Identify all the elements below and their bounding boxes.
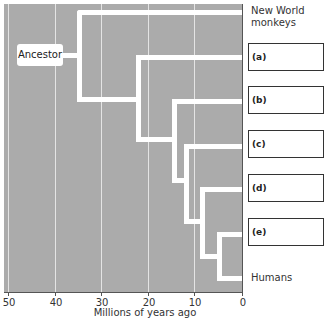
present-axis-line bbox=[242, 4, 243, 293]
tip-label-line-1: New World bbox=[251, 5, 305, 17]
tip-label-line-2: monkeys bbox=[251, 17, 305, 29]
answer-box-label: (e) bbox=[252, 227, 266, 237]
tick-50 bbox=[8, 292, 9, 296]
tick-label-40: 40 bbox=[46, 297, 66, 308]
branch-d bbox=[200, 187, 242, 192]
tick-20 bbox=[148, 292, 149, 296]
branch-b bbox=[172, 99, 242, 104]
answer-box-a[interactable]: (a) bbox=[248, 43, 324, 71]
node-4-vertical bbox=[184, 144, 189, 224]
tick-0 bbox=[242, 292, 243, 296]
branch-humans bbox=[217, 276, 242, 281]
answer-box-label: (d) bbox=[252, 183, 267, 193]
tick-30 bbox=[101, 292, 102, 296]
x-axis-line bbox=[4, 292, 242, 293]
branch-c bbox=[184, 144, 242, 149]
answer-box-label: (b) bbox=[252, 95, 267, 105]
branch-n1-n2 bbox=[77, 97, 141, 102]
node-5-vertical bbox=[200, 187, 205, 258]
answer-box-label: (a) bbox=[252, 52, 266, 62]
node-6-vertical bbox=[217, 232, 222, 281]
answer-box-d[interactable]: (d) bbox=[248, 174, 324, 202]
answer-box-e[interactable]: (e) bbox=[248, 218, 324, 246]
node-1-vertical bbox=[77, 10, 82, 102]
gridline-50 bbox=[8, 4, 9, 292]
node-2-vertical bbox=[136, 55, 141, 142]
tip-label-humans: Humans bbox=[251, 272, 292, 284]
tick-label-50: 50 bbox=[0, 297, 19, 308]
node-3-vertical bbox=[172, 99, 177, 182]
answer-box-label: (c) bbox=[252, 139, 266, 149]
x-axis-title: Millions of years ago bbox=[80, 308, 210, 318]
tip-label-new-world-monkeys: New World monkeys bbox=[251, 5, 305, 29]
gridline-20 bbox=[148, 4, 149, 292]
tick-label-0: 0 bbox=[233, 297, 253, 308]
tick-10 bbox=[194, 292, 195, 296]
branch-a bbox=[136, 55, 242, 60]
branch-e bbox=[217, 232, 242, 237]
ancestor-label: Ancestor bbox=[17, 44, 63, 66]
tick-40 bbox=[55, 292, 56, 296]
branch-new-world bbox=[77, 10, 242, 15]
gridline-30 bbox=[101, 4, 102, 292]
branch-n2-n3 bbox=[136, 137, 176, 142]
answer-box-c[interactable]: (c) bbox=[248, 130, 324, 158]
answer-box-b[interactable]: (b) bbox=[248, 86, 324, 114]
